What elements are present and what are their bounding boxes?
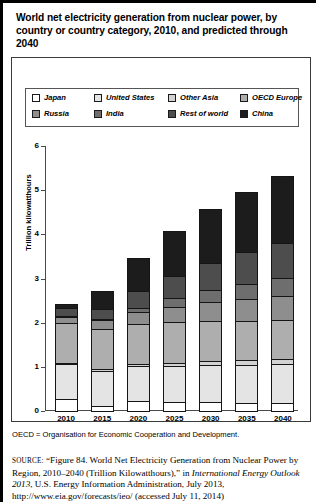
legend-label: Other Asia xyxy=(180,93,218,102)
stacked-bar xyxy=(91,291,114,411)
bar-segment xyxy=(271,176,294,244)
legend-label: Japan xyxy=(44,93,66,102)
legend-label: Russia xyxy=(44,109,69,118)
bar-segment xyxy=(127,324,150,365)
bar-segment xyxy=(271,320,294,360)
bar-segment xyxy=(163,307,186,323)
stacked-bar xyxy=(163,231,186,411)
figure-page: World net electricity generation from nu… xyxy=(0,0,316,502)
bar-segment xyxy=(271,243,294,279)
x-tick-label: 2040 xyxy=(261,414,305,423)
source-label: SOURCE: xyxy=(12,457,44,465)
y-tick-label: 1 xyxy=(26,363,39,371)
bar-segment xyxy=(163,231,186,277)
legend-item: Japan xyxy=(32,93,66,102)
bar-segment xyxy=(127,291,150,308)
bar-segment xyxy=(235,321,258,362)
bar-segment xyxy=(127,366,150,402)
bar-segment xyxy=(163,402,186,412)
y-tick-label: 5 xyxy=(26,186,39,194)
stacked-bar xyxy=(55,304,78,411)
figure-footnote: OECD = Organisation for Economic Coopera… xyxy=(12,430,312,440)
legend-label: India xyxy=(106,109,124,118)
legend-item: China xyxy=(240,109,273,118)
bar-segment xyxy=(91,406,114,412)
legend-swatch-icon xyxy=(168,110,176,118)
bar-segment xyxy=(199,302,222,321)
legend-swatch-icon xyxy=(32,94,40,102)
bar-segment xyxy=(91,371,114,408)
bar-segment xyxy=(163,276,186,299)
bar-segment xyxy=(235,192,258,254)
y-axis-title: Trillion kilowatthours xyxy=(24,158,33,268)
legend-label: Rest of world xyxy=(180,109,228,118)
bar-segment xyxy=(127,401,150,412)
bar-segment xyxy=(91,329,114,370)
y-tick-label: 0 xyxy=(26,407,39,415)
bar-segment xyxy=(271,364,294,403)
legend-swatch-icon xyxy=(32,110,40,118)
top-rule xyxy=(3,0,316,3)
y-tick-label: 6 xyxy=(26,142,39,150)
legend-label: OECD Europe xyxy=(252,93,302,102)
y-tick-label: 4 xyxy=(26,230,39,238)
y-tick-label: 2 xyxy=(26,319,39,327)
legend-swatch-icon xyxy=(168,94,176,102)
stacked-bar xyxy=(127,258,150,411)
bar-segment xyxy=(199,209,222,263)
chart-frame: JapanUnited StatesOther AsiaOECD EuropeR… xyxy=(11,57,311,422)
legend-item: OECD Europe xyxy=(240,93,302,102)
legend-item: Rest of world xyxy=(168,109,228,118)
stacked-bar xyxy=(271,176,294,411)
bar-segment xyxy=(163,322,186,364)
bar-segment xyxy=(55,323,78,364)
source-citation: SOURCE: “Figure 84. World Net Electricit… xyxy=(12,455,310,502)
bar-segment xyxy=(199,402,222,412)
legend-label: United States xyxy=(106,93,155,102)
legend-item: Other Asia xyxy=(168,93,218,102)
bar-segment xyxy=(163,366,186,403)
legend-item: United States xyxy=(94,93,155,102)
bar-segment xyxy=(91,291,114,310)
bar-segment xyxy=(55,399,78,412)
chart-legend: JapanUnited StatesOther AsiaOECD EuropeR… xyxy=(25,88,299,127)
bar-segment xyxy=(271,403,294,412)
bar-segment xyxy=(235,299,258,321)
source-text-2: , U.S. Energy Information Administration… xyxy=(30,479,184,489)
legend-swatch-icon xyxy=(240,110,248,118)
y-tick-label: 3 xyxy=(26,275,39,283)
bar-segment xyxy=(235,284,258,301)
bar-segment xyxy=(199,290,222,303)
bar-segment xyxy=(271,296,294,321)
bar-segment xyxy=(199,321,222,363)
bar-segment xyxy=(199,365,222,403)
legend-label: China xyxy=(252,109,273,118)
bar-segment xyxy=(235,365,258,404)
y-tick xyxy=(41,411,45,412)
legend-swatch-icon xyxy=(240,94,248,102)
bar-group xyxy=(45,146,298,411)
stacked-bar xyxy=(199,209,222,411)
bar-segment xyxy=(199,263,222,291)
bar-segment xyxy=(235,403,258,412)
legend-item: India xyxy=(94,109,124,118)
plot-area: 0123456 2010201520202025203020352040 xyxy=(45,146,298,411)
legend-swatch-icon xyxy=(94,94,102,102)
bar-segment xyxy=(235,252,258,284)
legend-item: Russia xyxy=(32,109,69,118)
legend-swatch-icon xyxy=(94,110,102,118)
figure-title: World net electricity generation from nu… xyxy=(16,11,304,51)
stacked-bar xyxy=(235,192,258,411)
bar-segment xyxy=(55,364,78,400)
bar-segment xyxy=(127,258,150,292)
bar-segment xyxy=(271,278,294,297)
